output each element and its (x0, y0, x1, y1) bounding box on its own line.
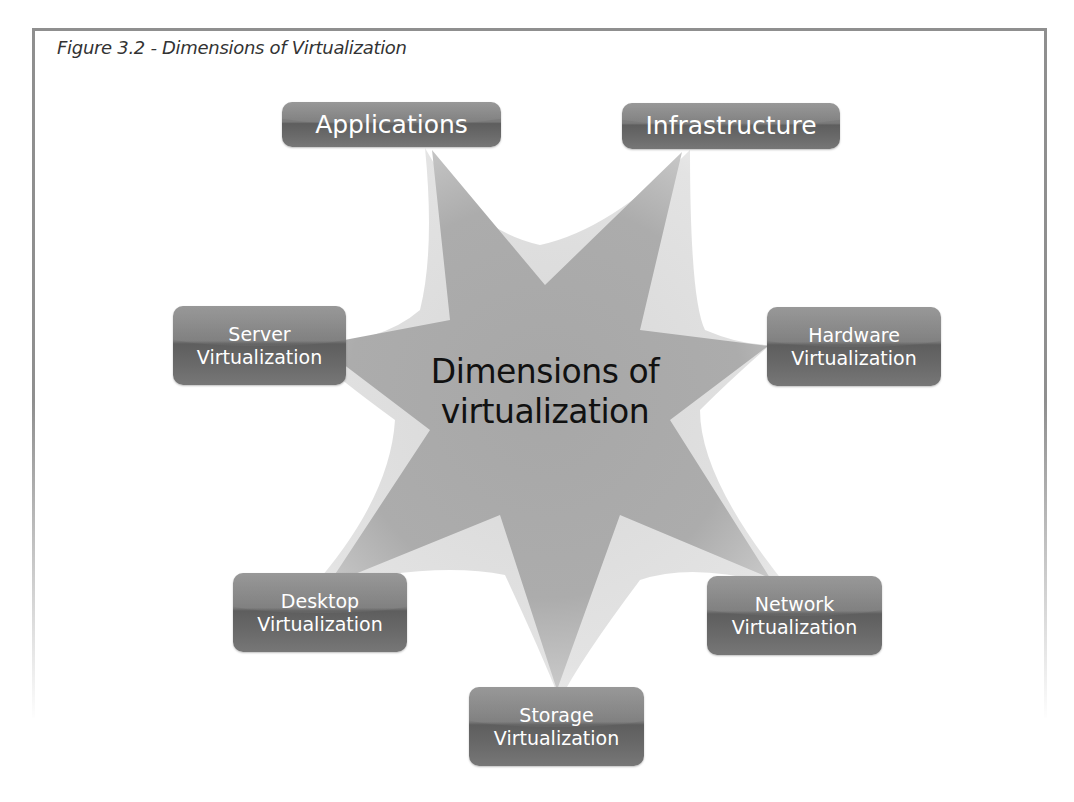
node-infrastructure-label: Infrastructure (645, 111, 816, 141)
center-label: Dimensions of virtualization (365, 352, 725, 432)
node-storage-line1: Storage (519, 704, 593, 727)
node-server-virtualization: Server Virtualization (173, 306, 346, 385)
center-label-line2: virtualization (365, 392, 725, 432)
node-network-virtualization: Network Virtualization (707, 576, 882, 655)
node-desktop-virtualization: Desktop Virtualization (233, 573, 407, 652)
node-storage-virtualization: Storage Virtualization (469, 687, 644, 766)
node-network-line2: Virtualization (732, 616, 857, 639)
node-infrastructure: Infrastructure (622, 103, 840, 149)
node-desktop-line1: Desktop (281, 590, 359, 613)
node-applications: Applications (282, 102, 501, 147)
node-hardware-virtualization: Hardware Virtualization (767, 307, 941, 386)
node-desktop-line2: Virtualization (257, 613, 382, 636)
node-applications-label: Applications (315, 110, 468, 140)
node-network-line1: Network (755, 593, 834, 616)
node-server-line2: Virtualization (197, 346, 322, 369)
node-server-line1: Server (228, 323, 290, 346)
node-storage-line2: Virtualization (494, 727, 619, 750)
center-label-line1: Dimensions of (365, 352, 725, 392)
node-hardware-line2: Virtualization (791, 347, 916, 370)
node-hardware-line1: Hardware (808, 324, 900, 347)
